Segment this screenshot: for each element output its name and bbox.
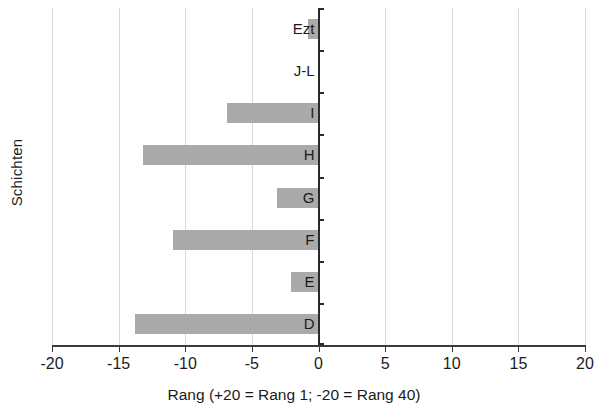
x-axis-tick-label: -10 [174,355,197,373]
x-axis-tick-label: 10 [443,355,461,373]
x-axis-title: Rang (+20 = Rang 1; -20 = Rang 40) [0,386,588,404]
category-label-i: I [310,103,314,123]
y-axis-tick [318,303,324,305]
y-axis-tick [318,50,324,52]
x-axis-tick [319,345,320,352]
y-axis-title: Schichten [9,139,26,207]
x-axis-tick-label: 20 [576,355,594,373]
y-axis-tick [318,177,324,179]
x-axis-tick-label: -5 [245,355,259,373]
category-label-f: F [305,230,314,250]
bar-row: E [52,261,585,303]
bar-f [173,230,318,250]
category-label-h: H [304,145,315,165]
plot-area: DEFGHIJ-LEzt [52,8,585,345]
x-axis-tick-label: -20 [40,355,63,373]
bar-row: D [52,303,585,345]
bar-row: F [52,219,585,261]
x-axis-tick-label: 5 [381,355,390,373]
y-axis-tick [318,92,324,94]
x-axis-tick [518,345,519,352]
y-axis-tick [318,8,324,10]
category-label-d: D [304,314,315,334]
category-label-g: G [303,188,315,208]
y-axis-title-container: Schichten [0,0,34,345]
bar-d [135,314,319,334]
category-label-j-l: J-L [294,61,315,81]
x-axis-tick [585,345,586,352]
y-axis-tick [318,219,324,221]
bar-row: H [52,134,585,176]
x-axis-tick-label: 0 [314,355,323,373]
y-axis-tick [318,261,324,263]
bar-row: J-L [52,50,585,92]
x-axis-tick-label: 15 [509,355,527,373]
bar-i [227,103,319,123]
x-axis-tick-label: -15 [107,355,130,373]
bar-row: I [52,92,585,134]
x-axis-tick [452,345,453,352]
bar-row: G [52,177,585,219]
gridline [585,8,586,345]
x-axis-tick [185,345,186,352]
bar-h [143,145,319,165]
bar-row: Ezt [52,8,585,50]
x-axis-tick [252,345,253,352]
y-axis-tick [318,134,324,136]
x-axis-tick [385,345,386,352]
x-axis-tick [52,345,53,352]
category-label-ezt: Ezt [293,19,315,39]
x-axis-tick [119,345,120,352]
category-label-e: E [304,272,314,292]
